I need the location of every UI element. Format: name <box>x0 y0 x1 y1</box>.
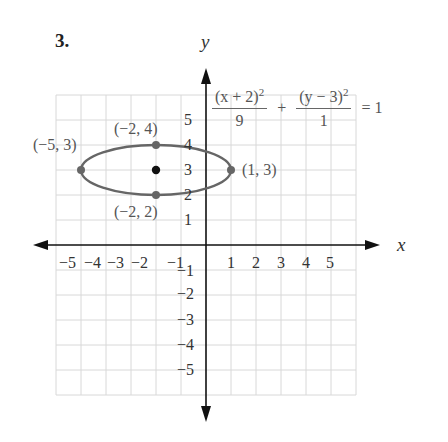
point-right-vertex <box>227 166 235 174</box>
point-top-covertex <box>152 141 160 149</box>
x-axis-right-arrow-icon <box>365 240 380 250</box>
y-axis-up-arrow-icon <box>201 68 211 84</box>
point-center <box>152 166 160 174</box>
term1-numerator: (x + 2) <box>215 88 259 105</box>
x-tick-label: 1 <box>227 255 235 271</box>
x-axis-left-arrow-icon <box>33 240 48 250</box>
y-axis-label: y <box>201 32 209 51</box>
equation-term-x: (x + 2)2 9 <box>212 86 267 130</box>
y-tick-label: −1 <box>177 263 194 279</box>
x-tick-label: 5 <box>326 255 334 271</box>
plus-sign: + <box>277 99 286 117</box>
label-left-vertex: (−5, 3) <box>33 137 77 153</box>
x-tick-label: −2 <box>131 255 148 271</box>
label-bottom-covertex: (−2, 2) <box>114 204 158 220</box>
y-tick-label: 3 <box>184 162 192 178</box>
term2-numerator: (y − 3) <box>299 88 343 105</box>
problem-number: 3. <box>55 30 69 52</box>
label-top-covertex: (−2, 4) <box>114 121 158 137</box>
y-tick-label: 1 <box>184 212 192 228</box>
term1-denominator: 9 <box>212 108 267 130</box>
y-tick-label: −5 <box>177 362 194 378</box>
equals-one: = 1 <box>361 99 382 117</box>
y-axis-down-arrow-icon <box>201 406 211 422</box>
label-right-vertex: (1, 3) <box>242 162 277 178</box>
x-tick-label: −5 <box>59 255 76 271</box>
y-tick-label: 5 <box>184 112 192 128</box>
y-tick-label: −4 <box>177 337 194 353</box>
term1-exponent: 2 <box>259 86 265 98</box>
x-axis-label: x <box>397 235 405 254</box>
term2-denominator: 1 <box>296 108 351 130</box>
term2-exponent: 2 <box>343 86 349 98</box>
y-tick-label: −2 <box>177 286 194 302</box>
y-tick-label: −3 <box>177 312 194 328</box>
x-tick-label: 4 <box>302 255 310 271</box>
coordinate-plane <box>0 0 448 442</box>
x-tick-label: 3 <box>277 255 285 271</box>
equation-term-y: (y − 3)2 1 <box>296 86 351 130</box>
point-bottom-covertex <box>152 191 160 199</box>
ellipse-equation: (x + 2)2 9 + (y − 3)2 1 = 1 <box>212 86 382 130</box>
x-tick-label: −3 <box>107 255 124 271</box>
y-tick-label: 4 <box>184 137 192 153</box>
point-left-vertex <box>77 166 85 174</box>
x-tick-label: 2 <box>252 255 260 271</box>
y-tick-label: 2 <box>184 187 192 203</box>
x-tick-label: −4 <box>84 255 101 271</box>
